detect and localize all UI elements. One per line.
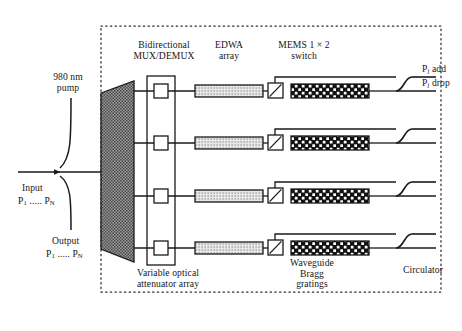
mems-drop-branch <box>275 77 396 83</box>
circulator-unit <box>396 77 412 91</box>
channel-row <box>134 77 436 255</box>
output-ports-label: P1 ..... PN <box>46 249 116 260</box>
add-port-label: Pj add <box>422 64 462 75</box>
mems-drop-branch <box>275 129 396 135</box>
edwa-unit <box>195 137 263 149</box>
output-label: Output <box>52 236 112 247</box>
bragg-grating-unit <box>291 241 369 255</box>
input-ports-label: P1 ..... PN <box>18 196 88 207</box>
circulator-unit <box>396 182 412 196</box>
edwa-label: EDWA array <box>198 40 260 61</box>
circulator-label: Circulator <box>390 265 456 276</box>
voa-label: Variable optical attenuator array <box>115 268 221 289</box>
figure-canvas: 980 nm pump Bidirectional MUX/DEMUX EDWA… <box>0 0 462 331</box>
voa-cell <box>154 136 168 150</box>
edwa-unit <box>195 85 263 97</box>
bragg-grating-unit <box>291 136 369 150</box>
pump-label: 980 nm pump <box>28 72 108 93</box>
input-label: Input <box>22 183 82 194</box>
voa-cell <box>154 84 168 98</box>
mems-drop-branch <box>275 182 396 188</box>
mux-demux-block[interactable] <box>101 81 134 262</box>
circulator-unit <box>396 129 412 143</box>
voa-array-block[interactable] <box>147 76 175 265</box>
edwa-unit <box>195 190 263 202</box>
mux-demux-label: Bidirectional MUX/DEMUX <box>118 40 210 61</box>
bragg-grating-unit <box>291 189 369 203</box>
mems-label: MEMS 1 × 2 switch <box>262 40 346 61</box>
bragg-label: Waveguide Bragg gratings <box>276 258 348 290</box>
bragg-grating-unit <box>291 84 369 98</box>
circulator-unit <box>396 234 412 248</box>
voa-cell <box>154 189 168 203</box>
drop-port-label: Pj drop <box>422 78 462 89</box>
mems-drop-branch <box>275 234 396 240</box>
voa-cell <box>154 241 168 255</box>
pump-fiber-curve <box>60 98 71 168</box>
edwa-unit <box>195 242 263 254</box>
